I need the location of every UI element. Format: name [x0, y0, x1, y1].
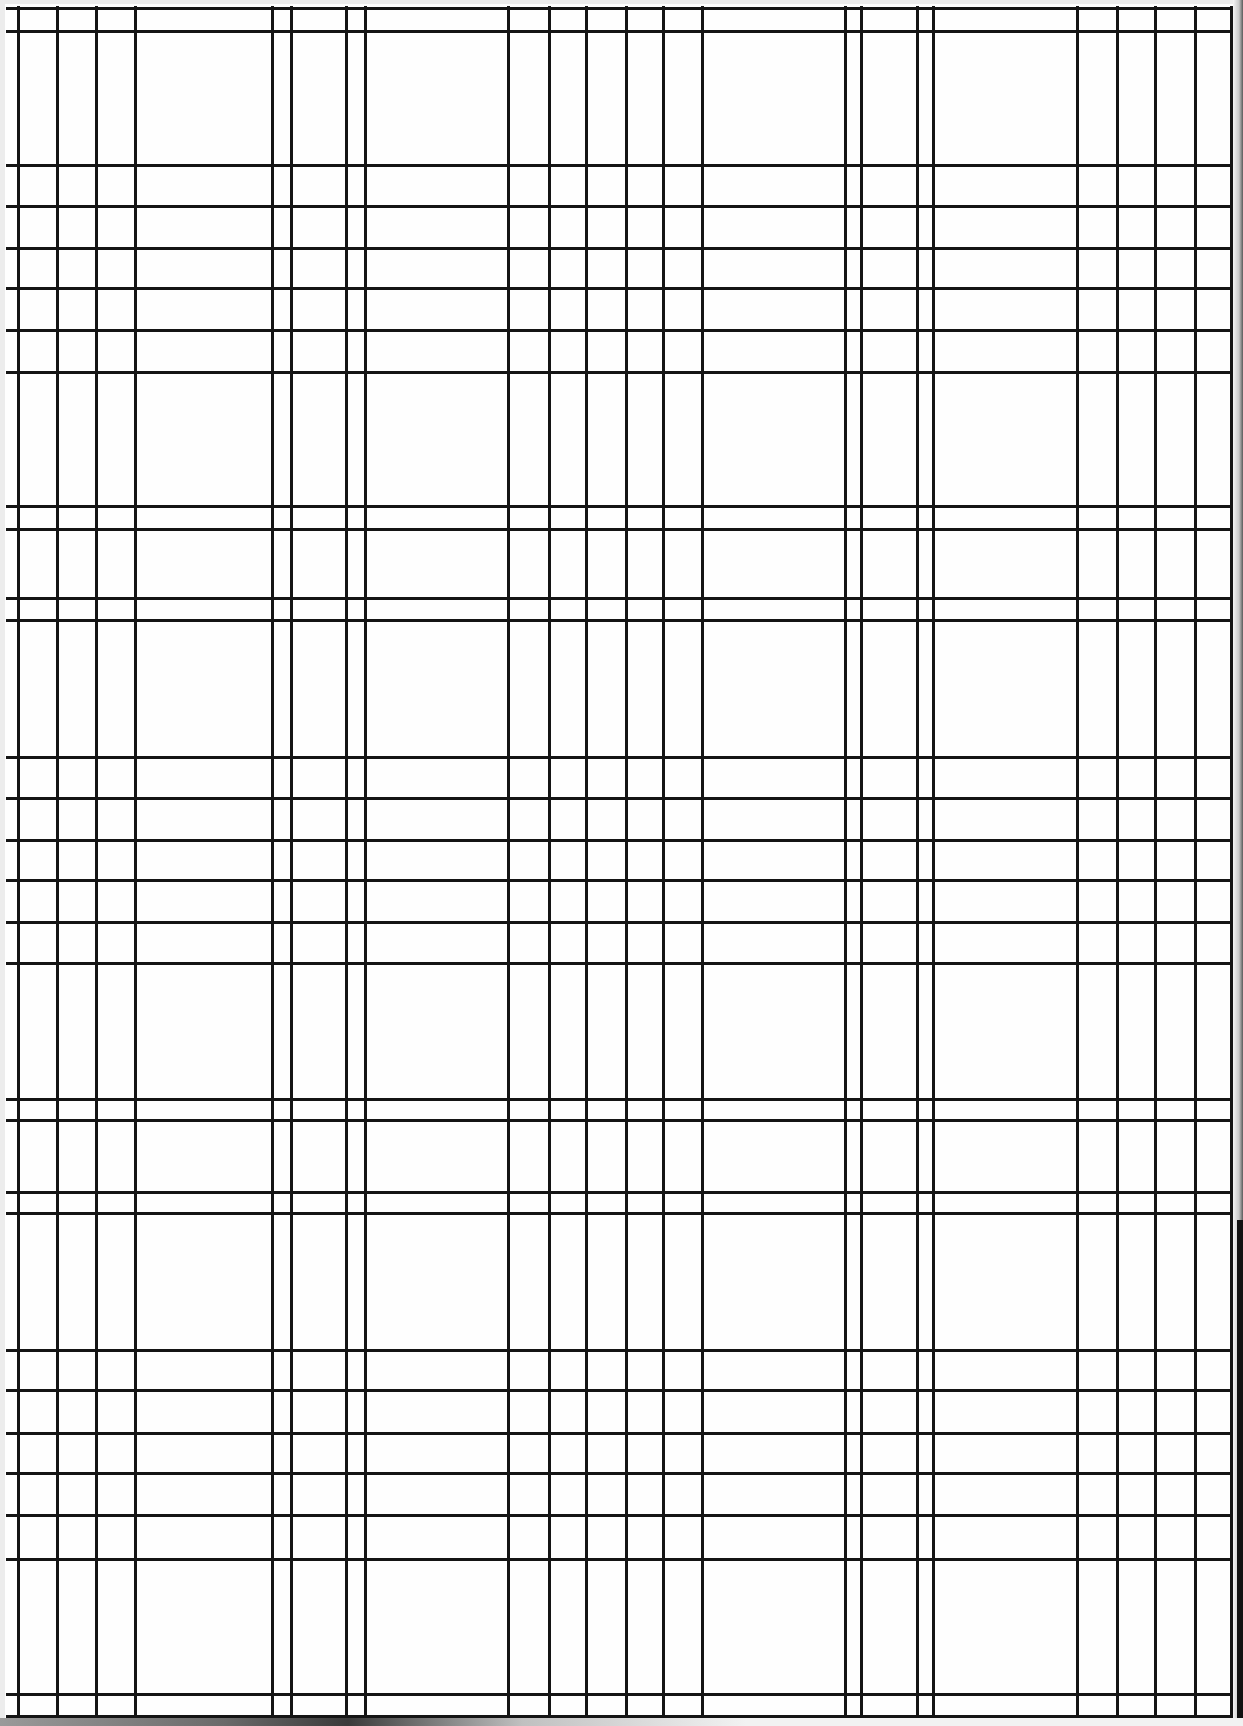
horizontal-line — [6, 797, 1232, 800]
horizontal-line — [6, 962, 1232, 965]
vertical-line — [701, 6, 704, 1718]
horizontal-line — [6, 1212, 1232, 1215]
horizontal-line — [6, 1349, 1232, 1352]
vertical-line — [662, 6, 665, 1718]
horizontal-line — [6, 1432, 1232, 1435]
vertical-line — [932, 6, 935, 1718]
horizontal-line — [6, 839, 1232, 842]
vertical-line — [56, 6, 59, 1718]
horizontal-line — [6, 329, 1232, 332]
horizontal-line — [6, 619, 1232, 622]
horizontal-line — [6, 205, 1232, 208]
horizontal-line — [6, 1472, 1232, 1475]
horizontal-line — [6, 756, 1232, 759]
vertical-line — [1076, 6, 1079, 1718]
vertical-line — [507, 6, 510, 1718]
vertical-line — [17, 6, 20, 1718]
scan-edge-bottom — [0, 1718, 1243, 1726]
vertical-line — [1154, 6, 1157, 1718]
vertical-line — [1116, 6, 1119, 1718]
vertical-line — [585, 6, 588, 1718]
horizontal-line — [6, 1558, 1232, 1561]
horizontal-line — [6, 1514, 1232, 1517]
vertical-line — [860, 6, 863, 1718]
vertical-line — [548, 6, 551, 1718]
scan-edge-left — [0, 0, 5, 1726]
vertical-line — [364, 6, 367, 1718]
vertical-line — [95, 6, 98, 1718]
horizontal-line — [6, 528, 1232, 531]
vertical-line — [290, 6, 293, 1718]
horizontal-line — [6, 247, 1232, 250]
horizontal-line — [6, 1389, 1232, 1392]
plaid-grid-canvas — [0, 0, 1243, 1726]
horizontal-line — [6, 1191, 1232, 1194]
horizontal-line — [6, 1693, 1232, 1696]
horizontal-line — [6, 597, 1232, 600]
horizontal-line — [6, 287, 1232, 290]
vertical-line — [271, 6, 274, 1718]
horizontal-line — [6, 1119, 1232, 1122]
vertical-line — [1194, 6, 1197, 1718]
scan-edge-top — [0, 0, 1243, 4]
vertical-line — [625, 6, 628, 1718]
vertical-line — [345, 6, 348, 1718]
horizontal-line — [6, 879, 1232, 882]
scan-shadow-right — [1237, 1220, 1243, 1726]
horizontal-line — [6, 164, 1232, 167]
horizontal-line — [6, 921, 1232, 924]
horizontal-line — [6, 505, 1232, 508]
horizontal-line — [6, 30, 1232, 33]
horizontal-line — [6, 1098, 1232, 1101]
horizontal-line — [6, 7, 1232, 10]
vertical-line — [916, 6, 919, 1718]
horizontal-line — [6, 371, 1232, 374]
vertical-line — [844, 6, 847, 1718]
vertical-line — [134, 6, 137, 1718]
